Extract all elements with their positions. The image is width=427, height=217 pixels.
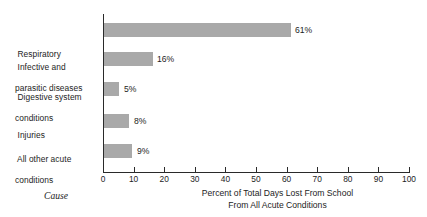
- category-label-line: All other acute: [17, 154, 71, 164]
- x-tick-mark: [348, 167, 349, 172]
- bar-respiratory: [104, 23, 291, 37]
- bar-value-all-other-acute-conditions: 9%: [137, 147, 149, 156]
- x-tick-mark: [409, 167, 410, 172]
- x-tick-mark: [103, 167, 104, 172]
- bar-all-other-acute-conditions: [104, 144, 132, 158]
- x-tick-label: 20: [151, 174, 177, 184]
- x-tick-label: 60: [274, 174, 300, 184]
- x-tick-label: 70: [304, 174, 330, 184]
- x-tick-label: 40: [212, 174, 238, 184]
- x-tick-label: 50: [243, 174, 269, 184]
- category-label-line: Infective and: [18, 62, 66, 72]
- x-tick-mark: [256, 167, 257, 172]
- x-tick-mark: [317, 167, 318, 172]
- x-tick-mark: [225, 167, 226, 172]
- bar-value-infective-and-parasitic-diseases: 16%: [157, 55, 174, 64]
- x-tick-mark: [378, 167, 379, 172]
- x-axis-title: Percent of Total Days Lost From School F…: [160, 188, 395, 211]
- x-tick-mark: [287, 167, 288, 172]
- x-axis-line: [103, 172, 410, 173]
- x-axis-title-line: From All Acute Conditions: [160, 200, 395, 212]
- x-tick-label: 90: [365, 174, 391, 184]
- category-label-line: conditions: [8, 175, 71, 186]
- bar-value-digestive-system-conditions: 5%: [124, 85, 136, 94]
- bar-infective-and-parasitic-diseases: [104, 52, 153, 66]
- x-tick-mark: [134, 167, 135, 172]
- bar-value-respiratory: 61%: [295, 26, 312, 35]
- category-label-line: Injuries: [18, 130, 45, 140]
- x-tick-mark: [164, 167, 165, 172]
- bar-digestive-system-conditions: [104, 82, 119, 96]
- x-tick-label: 80: [335, 174, 361, 184]
- bar-injuries: [104, 114, 129, 128]
- x-axis-title-line: Percent of Total Days Lost From School: [160, 188, 395, 200]
- x-tick-label: 30: [182, 174, 208, 184]
- x-tick-label: 0: [90, 174, 116, 184]
- x-tick-mark: [195, 167, 196, 172]
- y-axis-title: Cause: [44, 190, 68, 201]
- x-tick-label: 10: [121, 174, 147, 184]
- bar-value-injuries: 8%: [134, 117, 146, 126]
- bar-chart: Respiratory Infective and parasitic dise…: [0, 0, 427, 217]
- category-label-line: Digestive system: [18, 92, 82, 102]
- x-tick-label: 100: [396, 174, 422, 184]
